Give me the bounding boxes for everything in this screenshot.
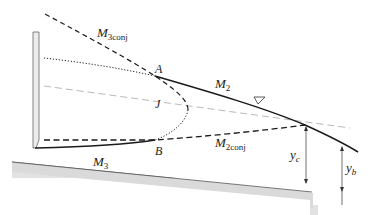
yb-dimension (340, 146, 344, 205)
flow-profile-diagram: M3conj A M2 J B M2conj M3 yc yb (0, 0, 371, 215)
m2-curve (155, 76, 358, 152)
sluice-gate (33, 32, 39, 148)
water-surface-triangle-icon (254, 97, 265, 104)
label-m3: M3 (92, 154, 109, 171)
label-point-a: A (154, 62, 163, 76)
label-m3conj: M3conj (96, 25, 128, 42)
label-yb: yb (344, 160, 357, 177)
m3-curve (35, 140, 155, 148)
label-point-j: J (155, 97, 161, 111)
m2conj-curve (44, 125, 305, 140)
dotted-curve-upper (44, 58, 155, 76)
j-reference-line (44, 86, 350, 128)
label-point-b: B (155, 144, 163, 158)
yc-dimension (304, 126, 308, 184)
label-m2: M2 (214, 76, 230, 93)
label-m2conj: M2conj (214, 135, 246, 152)
label-yc: yc (288, 147, 300, 164)
m3conj-curve (45, 14, 188, 110)
dotted-curve-lower (155, 110, 188, 140)
